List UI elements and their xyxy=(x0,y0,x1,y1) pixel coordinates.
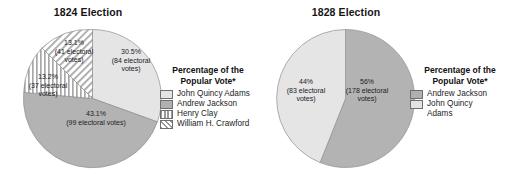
medium-gray-swatch-icon xyxy=(410,90,423,99)
legend-item-john-quincy-adams-1824[interactable]: John Quincy Adams xyxy=(160,89,260,99)
legend-1824: Percentage of the Popular Vote* John Qui… xyxy=(160,65,260,129)
legend-title-1824: Percentage of the Popular Vote* xyxy=(160,65,256,86)
pie-chart-1828 xyxy=(273,26,418,171)
light-gray-swatch-icon xyxy=(410,100,423,109)
panel-1824-election: 1824 Election xyxy=(0,0,258,174)
legend-title-1828-line1: Percentage of the xyxy=(410,65,510,76)
legend-title-1824-line1: Percentage of the xyxy=(160,65,256,76)
legend-title-1828: Percentage of the Popular Vote* xyxy=(410,65,510,86)
pie-svg-1824 xyxy=(20,26,165,171)
page-title-1828: 1828 Election xyxy=(276,6,416,18)
diagonal-stripe-swatch-icon xyxy=(160,120,173,129)
pie-chart-1824 xyxy=(20,26,165,171)
legend-item-andrew-jackson-1828[interactable]: Andrew Jackson xyxy=(410,89,514,99)
legend-item-william-h-crawford-1824[interactable]: William H. Crawford xyxy=(160,119,260,129)
pie-svg-1828 xyxy=(273,26,418,171)
legend-title-1828-line2: Popular Vote* xyxy=(410,76,510,87)
legend-label-john-quincy-adams-1824: John Quincy Adams xyxy=(177,89,250,99)
light-gray-swatch-icon xyxy=(160,90,173,99)
legend-label-henry-clay-1824: Henry Clay xyxy=(177,109,218,119)
legend-label-andrew-jackson-1824: Andrew Jackson xyxy=(177,99,237,109)
legend-title-1824-line2: Popular Vote* xyxy=(160,76,256,87)
medium-gray-swatch-icon xyxy=(160,100,173,109)
legend-label-william-h-crawford-1824: William H. Crawford xyxy=(177,119,249,129)
vertical-stripe-swatch-icon xyxy=(160,110,173,119)
page-title-1824: 1824 Election xyxy=(18,6,158,18)
two-pie-chart-figure: 1824 Election xyxy=(0,0,514,174)
legend-label-john-quincy-adams-1828: John Quincy Adams xyxy=(427,99,489,119)
legend-1828: Percentage of the Popular Vote* Andrew J… xyxy=(410,65,514,119)
legend-item-henry-clay-1824[interactable]: Henry Clay xyxy=(160,109,260,119)
legend-item-andrew-jackson-1824[interactable]: Andrew Jackson xyxy=(160,99,260,109)
legend-label-andrew-jackson-1828: Andrew Jackson xyxy=(427,89,487,99)
legend-item-john-quincy-adams-1828[interactable]: John Quincy Adams xyxy=(410,99,514,119)
